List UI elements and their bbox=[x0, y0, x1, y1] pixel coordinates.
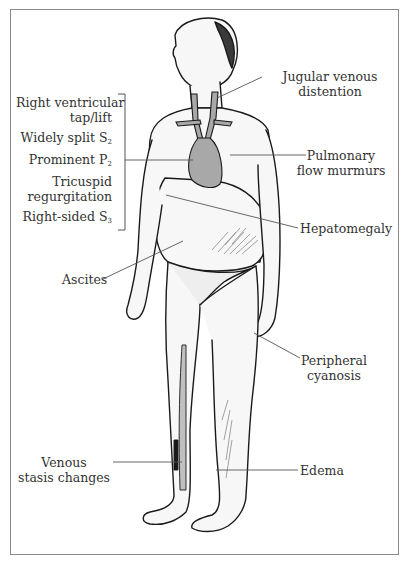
label-line: flow murmurs bbox=[296, 163, 386, 178]
label-venous-stasis-changes: Venous stasis changes bbox=[14, 455, 114, 485]
label-line: Tricuspid bbox=[16, 174, 112, 189]
label-widely-split-s2: Widely split S2 bbox=[16, 130, 112, 150]
label-line: Right ventricular bbox=[16, 95, 112, 110]
label-text: Widely split S bbox=[21, 130, 108, 145]
label-text: Right-sided S bbox=[22, 209, 107, 224]
label-text: Prominent P bbox=[29, 152, 108, 167]
label-line: stasis changes bbox=[14, 470, 114, 485]
label-peripheral-cyanosis: Peripheral cyanosis bbox=[298, 353, 370, 383]
label-edema: Edema bbox=[300, 463, 344, 478]
label-subscript: 3 bbox=[108, 217, 112, 225]
label-line: tap/lift bbox=[16, 110, 112, 125]
label-right-ventricular-tap: Right ventricular tap/lift bbox=[16, 95, 112, 125]
label-jugular-venous-distention: Jugular venous distention bbox=[282, 69, 378, 99]
label-subscript: 2 bbox=[108, 160, 112, 168]
label-line: Peripheral bbox=[298, 353, 370, 368]
label-line: Venous bbox=[14, 455, 114, 470]
label-prominent-p2: Prominent P2 bbox=[16, 152, 112, 172]
label-line: regurgitation bbox=[16, 189, 112, 204]
label-right-sided-s3: Right-sided S3 bbox=[16, 209, 112, 229]
label-line: distention bbox=[282, 84, 378, 99]
label-line: cyanosis bbox=[298, 368, 370, 383]
label-ascites: Ascites bbox=[62, 272, 107, 287]
left-leg bbox=[192, 266, 258, 532]
bracket bbox=[118, 94, 125, 230]
label-hepatomegaly: Hepatomegaly bbox=[300, 221, 392, 236]
label-pulmonary-flow-murmurs: Pulmonary flow murmurs bbox=[296, 148, 386, 178]
label-line: Pulmonary bbox=[296, 148, 386, 163]
label-line: Jugular venous bbox=[282, 69, 378, 84]
right-leg bbox=[143, 262, 200, 524]
label-tricuspid-regurgitation: Tricuspid regurgitation bbox=[16, 174, 112, 204]
label-subscript: 2 bbox=[108, 138, 112, 146]
